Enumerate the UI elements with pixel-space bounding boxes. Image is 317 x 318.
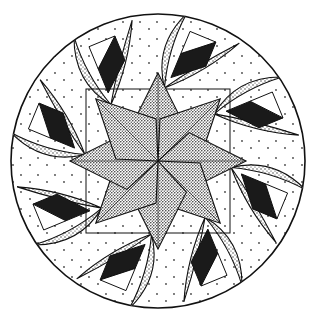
quilt-illustration	[0, 0, 317, 318]
central-star	[70, 73, 246, 249]
